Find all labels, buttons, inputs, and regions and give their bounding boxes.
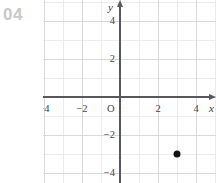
data-point <box>174 151 181 158</box>
plotted-points <box>43 0 216 183</box>
problem-number-label: 04 <box>3 6 23 23</box>
worksheet-graph-figure: 04 y x O −4−224 42−2−4 <box>0 0 216 183</box>
coordinate-plane: y x O −4−224 42−2−4 <box>43 0 216 183</box>
